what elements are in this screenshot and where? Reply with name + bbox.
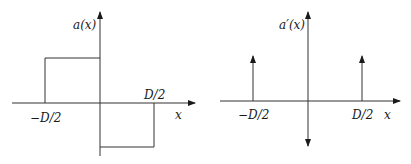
right-plot [220, 12, 400, 146]
right-x-axis-label: x [384, 109, 391, 121]
negative-pulse [100, 103, 154, 147]
left-tick-label-right: D/2 [144, 89, 165, 101]
right-y-axis-label: a′(x) [279, 19, 305, 31]
left-tick-label-left: −D/2 [30, 112, 61, 124]
diagram-canvas [0, 0, 411, 164]
left-x-axis-label: x [175, 109, 182, 121]
right-tick-label-right: D/2 [352, 109, 373, 121]
positive-pulse [45, 58, 100, 103]
right-tick-label-left: −D/2 [238, 109, 269, 121]
left-y-axis-label: a(x) [73, 19, 96, 31]
left-plot [12, 12, 195, 156]
